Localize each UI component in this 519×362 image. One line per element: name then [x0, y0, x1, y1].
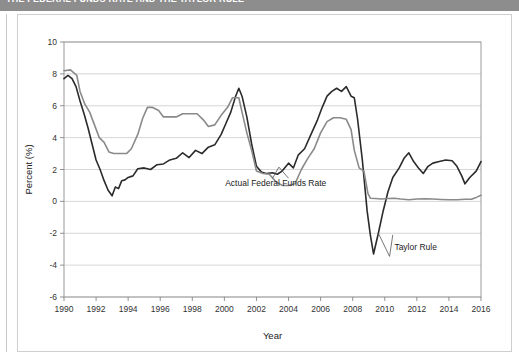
- series-line-taylor-rule: [64, 75, 481, 254]
- x-tick-label: 2016: [472, 304, 491, 314]
- grid-lines: [64, 42, 481, 297]
- x-axis-title: Year: [263, 330, 282, 341]
- annotation-leader-taylor: [378, 233, 392, 256]
- data-series: [64, 70, 481, 254]
- banner-caption: THE FEDERAL FUNDS RATE AND THE TAYLOR RU…: [6, 0, 244, 5]
- x-tick-label: 2000: [215, 304, 234, 314]
- y-tick-label: 6: [52, 101, 57, 111]
- x-tick-label: 2010: [375, 304, 394, 314]
- line-chart: -6-4-20246810 19901992199419961998200020…: [17, 14, 512, 352]
- x-tick-label: 1992: [87, 304, 106, 314]
- figure-banner: THE FEDERAL FUNDS RATE AND THE TAYLOR RU…: [0, 0, 519, 11]
- y-tick-label: 4: [52, 133, 57, 143]
- x-axis-ticks: 1990199219941996199820002002200420062008…: [55, 297, 491, 314]
- y-tick-label: -2: [49, 228, 57, 238]
- y-tick-label: -6: [49, 292, 57, 302]
- y-axis-title: Percent (%): [23, 144, 34, 194]
- x-tick-label: 1998: [183, 304, 202, 314]
- annotation-actual-federal-funds-rate: Actual Federal Funds Rate: [225, 178, 326, 188]
- chart-annotations: Actual Federal Funds RateTaylor Rule: [225, 167, 437, 256]
- x-tick-label: 1990: [55, 304, 74, 314]
- x-tick-label: 2008: [343, 304, 362, 314]
- chart-svg: -6-4-20246810 19901992199419961998200020…: [17, 14, 512, 352]
- x-tick-label: 2014: [439, 304, 458, 314]
- y-tick-label: 8: [52, 69, 57, 79]
- x-tick-label: 2006: [311, 304, 330, 314]
- x-tick-label: 1996: [151, 304, 170, 314]
- y-axis-ticks: -6-4-20246810: [48, 37, 64, 302]
- x-tick-label: 2012: [407, 304, 426, 314]
- left-margin-rule: [6, 14, 7, 352]
- y-tick-label: -4: [49, 260, 57, 270]
- x-tick-label: 2004: [279, 304, 298, 314]
- figure-page: THE FEDERAL FUNDS RATE AND THE TAYLOR RU…: [0, 0, 519, 362]
- x-tick-label: 2002: [247, 304, 266, 314]
- y-tick-label: 0: [52, 196, 57, 206]
- y-tick-label: 10: [48, 37, 58, 47]
- x-tick-label: 1994: [119, 304, 138, 314]
- annotation-taylor-rule: Taylor Rule: [394, 242, 437, 252]
- y-tick-label: 2: [52, 165, 57, 175]
